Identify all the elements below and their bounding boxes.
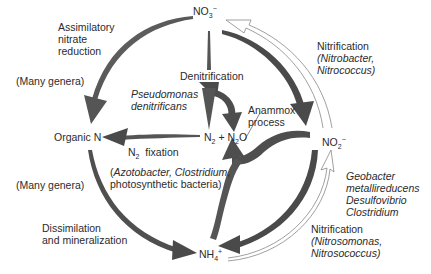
node-n2-n2o: N2 + N2O [204, 131, 247, 143]
label-geobacter: Geobacter metallireducens Desulfovibrio … [346, 170, 420, 218]
fixation-orgs-line-1: (Azotobacter, Clostridium, [110, 166, 230, 178]
nitrate-sup: − [213, 5, 217, 12]
node-nitrate: NO3− [193, 5, 217, 17]
pseudomonas-line-1: Pseudomonas [131, 88, 198, 100]
anammox-line-2: process [248, 116, 295, 128]
organic-n-label: Organic N [54, 131, 101, 143]
geobacter-line-2: metallireducens [346, 182, 420, 194]
nitrification-top-org-1: (Nitrobacter, [317, 52, 375, 64]
ammonium-sup: + [218, 248, 222, 255]
label-pseudomonas: Pseudomonas denitrificans [131, 88, 198, 112]
node-ammonium: NH4+ [199, 248, 222, 260]
nitrification-bottom-org-2: Nitrosococcus) [311, 247, 382, 259]
geobacter-line-3: Desulfovibrio [346, 194, 420, 206]
label-fixation-organisms: (Azotobacter, Clostridium, photosyntheti… [110, 166, 230, 190]
geobacter-line-1: Geobacter [346, 170, 420, 182]
label-many-genera-bottom: (Many genera) [16, 179, 84, 191]
ammonium-base: NH [199, 248, 214, 260]
nitrogen-cycle-diagram: NO3− Organic N N2 + N2O NO2− NH4+ Assimi… [0, 0, 431, 274]
node-organic-n: Organic N [54, 131, 101, 143]
label-nitrification-bottom: Nitrification (Nitrosomonas, Nitrosococc… [311, 223, 382, 259]
n2-fixation-arrow [102, 128, 200, 146]
n2o-suffix: O [239, 131, 247, 143]
n2-label: N [204, 131, 212, 143]
pseudomonas-line-2: denitrificans [131, 100, 198, 112]
nitrite-sup: − [342, 136, 346, 143]
nitrate-base: NO [193, 5, 209, 17]
nitrite-sub: 2 [338, 143, 342, 150]
label-assimilatory: Assimilatory nitrate reduction [58, 21, 115, 57]
fixation-orgs-comma: , [227, 166, 230, 178]
label-denitrification: Denitrification [180, 70, 244, 82]
nitrate-sub: 3 [209, 12, 213, 19]
anammox-line-1: Anammox [248, 104, 295, 116]
nitrite-base: NO [322, 136, 338, 148]
dissimilation-line-1: Dissimilation [42, 222, 127, 234]
label-dissimilation: Dissimilation and mineralization [42, 222, 127, 246]
n2-fixation-text: fixation [140, 146, 179, 158]
assimilatory-line-2: nitrate [58, 33, 115, 45]
fixation-orgs-italic: Azotobacter, Clostridium [114, 166, 228, 178]
nitrification-top-title: Nitrification [317, 40, 375, 52]
dissimilation-line-2: and mineralization [42, 234, 127, 246]
nitrification-bottom-org-1: (Nitrosomonas, [311, 235, 382, 247]
geobacter-line-4: Clostridium [346, 206, 420, 218]
label-many-genera-top: (Many genera) [16, 75, 84, 87]
nitrification-bottom-title: Nitrification [311, 223, 382, 235]
ammonium-sub: 4 [214, 255, 218, 262]
nitrification-top-org-2: Nitrococcus) [317, 64, 375, 76]
node-nitrite: NO2− [322, 136, 346, 148]
label-anammox: Anammox process [248, 104, 295, 128]
n2-fixation-n: N [128, 146, 136, 158]
label-n2-fixation: N2 fixation [128, 146, 179, 158]
label-nitrification-top: Nitrification (Nitrobacter, Nitrococcus) [317, 40, 375, 76]
n2o-prefix: + N [216, 131, 236, 143]
fixation-orgs-line-2: photosynthetic bacteria) [110, 178, 230, 190]
assimilatory-line-3: reduction [58, 45, 115, 57]
denitrification-arrow-2 [214, 90, 242, 132]
assimilatory-line-1: Assimilatory [58, 21, 115, 33]
